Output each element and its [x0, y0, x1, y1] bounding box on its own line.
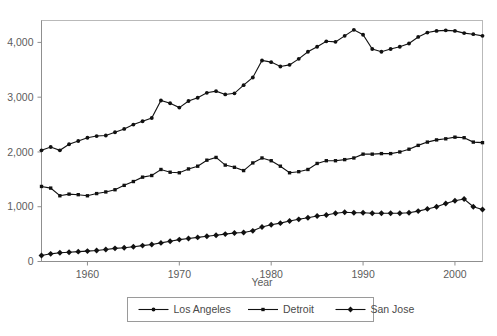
data-point — [380, 50, 384, 54]
data-point — [251, 76, 255, 80]
data-point — [277, 220, 283, 226]
data-point — [49, 145, 53, 149]
data-point — [406, 210, 412, 216]
data-point — [58, 194, 61, 197]
data-point — [398, 150, 401, 153]
data-point — [168, 101, 172, 105]
data-point — [224, 163, 227, 166]
data-point — [103, 247, 109, 253]
data-point — [75, 249, 81, 255]
legend-marker-square — [261, 308, 264, 311]
data-point — [112, 245, 118, 251]
data-point — [104, 190, 107, 193]
data-series-group — [39, 28, 486, 259]
data-point — [371, 152, 374, 155]
data-point — [168, 171, 171, 174]
data-point — [158, 240, 164, 246]
data-point — [95, 134, 99, 138]
data-point — [334, 40, 338, 44]
data-point — [86, 194, 89, 197]
legend-label: Detroit — [283, 303, 314, 315]
data-point — [187, 167, 190, 170]
line-chart: 01,0002,0003,0004,000 196019701980199020… — [0, 0, 497, 336]
data-point — [278, 65, 282, 69]
data-point — [444, 28, 448, 32]
y-tick-label: 2,000 — [7, 146, 33, 158]
data-point — [333, 210, 339, 216]
data-point — [351, 210, 357, 216]
data-point — [315, 162, 318, 165]
data-point — [424, 206, 430, 212]
x-axis-title: Year — [251, 276, 273, 288]
data-point — [76, 139, 80, 143]
data-point — [380, 152, 383, 155]
data-point — [77, 193, 80, 196]
data-point — [388, 210, 394, 216]
data-point — [352, 156, 355, 159]
series-los-angeles — [40, 28, 485, 152]
x-tick-label: 2000 — [443, 268, 467, 280]
series-line — [42, 30, 483, 151]
data-point — [288, 171, 291, 174]
data-point — [297, 170, 300, 173]
data-point — [398, 45, 402, 49]
series-detroit — [40, 135, 484, 197]
data-point — [49, 186, 52, 189]
legend-label: San Jose — [371, 303, 415, 315]
y-axis: 01,0002,0003,0004,000 — [7, 21, 41, 268]
data-point — [67, 192, 70, 195]
chart-legend: Los AngelesDetroitSan Jose — [128, 298, 415, 322]
data-point — [94, 248, 100, 254]
data-point — [279, 165, 282, 168]
data-point — [369, 210, 375, 216]
data-point — [315, 45, 319, 49]
data-point — [296, 216, 302, 222]
data-point — [287, 218, 293, 224]
data-point — [462, 136, 465, 139]
data-point — [178, 171, 181, 174]
data-point — [250, 228, 256, 234]
data-point — [176, 237, 182, 243]
data-point — [39, 253, 45, 259]
data-point — [84, 248, 90, 254]
data-point — [95, 192, 98, 195]
data-point — [205, 158, 208, 161]
data-point — [159, 168, 162, 171]
y-tick-label: 3,000 — [7, 91, 33, 103]
data-point — [113, 188, 116, 191]
data-point — [123, 184, 126, 187]
data-point — [480, 207, 486, 213]
data-point — [214, 156, 217, 159]
data-point — [196, 165, 199, 168]
data-point — [452, 198, 458, 204]
data-point — [306, 168, 309, 171]
data-point — [361, 152, 364, 155]
data-point — [481, 34, 485, 38]
data-point — [481, 141, 484, 144]
data-point — [187, 99, 191, 103]
data-point — [370, 47, 374, 51]
data-point — [471, 32, 475, 36]
data-point — [149, 242, 155, 248]
data-point — [132, 180, 135, 183]
data-point — [324, 39, 328, 43]
data-point — [325, 159, 328, 162]
data-point — [435, 138, 438, 141]
data-point — [314, 213, 320, 219]
data-point — [66, 249, 72, 255]
data-point — [260, 156, 263, 159]
data-point — [122, 127, 126, 131]
data-point — [323, 212, 329, 218]
data-point — [415, 208, 421, 214]
data-point — [86, 136, 90, 140]
data-point — [242, 83, 246, 87]
data-point — [269, 60, 273, 64]
y-tick-label: 0 — [28, 255, 34, 267]
legend-marker-circle — [152, 308, 156, 312]
data-point — [242, 169, 245, 172]
data-point — [40, 148, 44, 152]
data-point — [150, 174, 153, 177]
data-point — [121, 245, 127, 251]
data-point — [389, 152, 392, 155]
data-point — [233, 91, 237, 95]
